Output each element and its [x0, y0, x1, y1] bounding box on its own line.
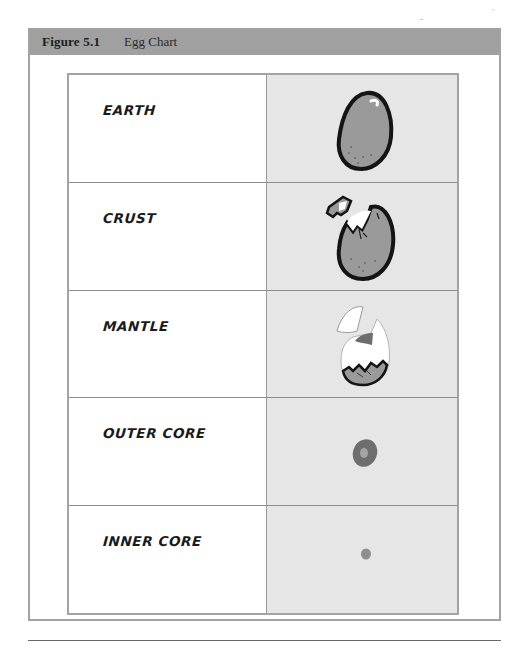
cracked-shell-egg-icon [267, 183, 457, 290]
table-row-mantle: MANTLE [69, 290, 457, 398]
figure-header: Figure 5.1 Egg Chart [30, 28, 499, 55]
image-cell [267, 75, 457, 182]
figure-frame: Figure 5.1 Egg Chart EARTH [28, 28, 501, 621]
layer-label: MANTLE [102, 318, 169, 334]
figure-number: Figure 5.1 [42, 34, 100, 50]
scan-speck [420, 19, 423, 20]
figure-title: Egg Chart [124, 34, 177, 50]
image-cell [267, 506, 457, 613]
table-row-inner-core: INNER CORE [69, 505, 457, 613]
bottom-rule-divider [28, 640, 501, 641]
label-cell: CRUST [69, 183, 267, 290]
label-cell: MANTLE [69, 291, 267, 398]
layer-label: CRUST [102, 210, 156, 226]
table-row-outer-core: OUTER CORE [69, 397, 457, 505]
label-cell: EARTH [69, 75, 267, 182]
layer-label: OUTER CORE [102, 425, 206, 441]
egg-white-icon [267, 291, 457, 398]
yolk-icon [267, 398, 457, 505]
egg-chart-table: EARTH CRUST [67, 73, 459, 615]
image-cell [267, 398, 457, 505]
layer-label: EARTH [102, 102, 156, 118]
whole-egg-icon [267, 75, 457, 182]
image-cell [267, 183, 457, 290]
label-cell: INNER CORE [69, 506, 267, 613]
layer-label: INNER CORE [102, 533, 202, 549]
label-cell: OUTER CORE [69, 398, 267, 505]
table-row-earth: EARTH [69, 75, 457, 182]
page-corner-mark: , [492, 2, 494, 12]
table-row-crust: CRUST [69, 182, 457, 290]
yolk-center-icon [267, 506, 457, 613]
image-cell [267, 291, 457, 398]
